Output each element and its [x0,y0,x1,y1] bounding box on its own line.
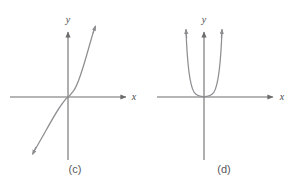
y-axis-label-d: y [201,14,207,25]
graph-panel-d: x y (d) [149,0,299,189]
x-axis-label-c: x [131,91,137,102]
graph-panel-c: x y (c) [0,0,150,189]
cubic-curve-c [33,27,95,153]
panel-caption-d: (d) [149,163,299,176]
graph-svg-d: x y [149,0,299,165]
figure-container: x y (c) x y [0,0,299,189]
parabola-arrow-right-d [221,29,222,38]
cubic-curve-arrow-lower-c [33,147,36,155]
cubic-curve-arrow-upper-c [93,26,96,33]
graph-svg-c: x y [0,0,150,165]
x-axis-label-d: x [279,91,285,102]
y-axis-label-c: y [65,14,71,25]
panel-caption-c: (c) [0,163,150,176]
parabola-arrow-left-d [186,29,187,38]
